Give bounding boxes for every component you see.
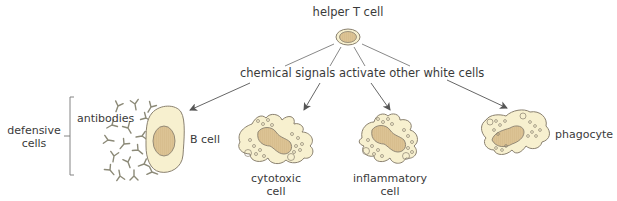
diagram-canvas [0, 0, 617, 201]
b-cell-icon [146, 106, 184, 172]
antibodies-label: antibodies [77, 112, 134, 125]
defensive-cells-label: defensive cells [4, 124, 64, 150]
arrow-to-cytotoxic [304, 83, 320, 110]
helper-t-cell-icon [336, 29, 360, 45]
cytotoxic-cell-icon [239, 114, 313, 163]
arrow-to-phagocyte [447, 80, 507, 108]
arrow-to-b-cell [190, 83, 250, 110]
inflammatory-cell-icon [359, 114, 417, 163]
b-cell-label: B cell [190, 133, 220, 146]
phagocyte-icon [482, 110, 550, 155]
cytotoxic-cell-label: cytotoxic cell [236, 172, 316, 198]
defensive-cells-bracket [64, 97, 74, 175]
helper-t-cell-label: helper T cell [308, 6, 388, 19]
connector-lines [285, 44, 410, 66]
signal-label: chemical signals activate other white ce… [240, 67, 458, 80]
activation-arrows [190, 80, 507, 110]
inflammatory-cell-label: inflammatory cell [350, 172, 430, 198]
arrow-to-inflammatory [371, 83, 390, 110]
phagocyte-label: phagocyte [555, 128, 613, 141]
